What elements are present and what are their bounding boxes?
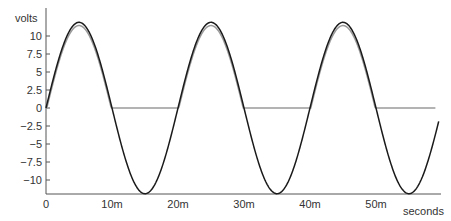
x-axis-title: seconds [403, 205, 444, 217]
y-tick-label: 2.5 [27, 84, 42, 96]
y-tick-label: 10 [30, 30, 42, 42]
x-tick-label: 50m [365, 198, 386, 210]
y-tick-label: 5 [36, 66, 42, 78]
chart: 107.552.50−2.5−5−7.5−10 010m20m30m40m50m… [0, 0, 451, 221]
x-tick-label: 20m [167, 198, 188, 210]
x-tick-label: 0 [43, 198, 49, 210]
series-group [46, 22, 439, 193]
axes [46, 8, 441, 194]
x-tick-label: 10m [101, 198, 122, 210]
y-tick-label: −10 [23, 174, 42, 186]
y-tick-label: 7.5 [27, 48, 42, 60]
y-tick-label: 0 [36, 102, 42, 114]
x-tick-label: 40m [299, 198, 320, 210]
x-ticks: 010m20m30m40m50m [43, 198, 387, 210]
y-tick-label: −5 [29, 138, 42, 150]
y-tick-label: −2.5 [20, 120, 42, 132]
y-tick-label: −7.5 [20, 156, 42, 168]
x-tick-label: 30m [233, 198, 254, 210]
y-axis-title: volts [15, 12, 38, 24]
